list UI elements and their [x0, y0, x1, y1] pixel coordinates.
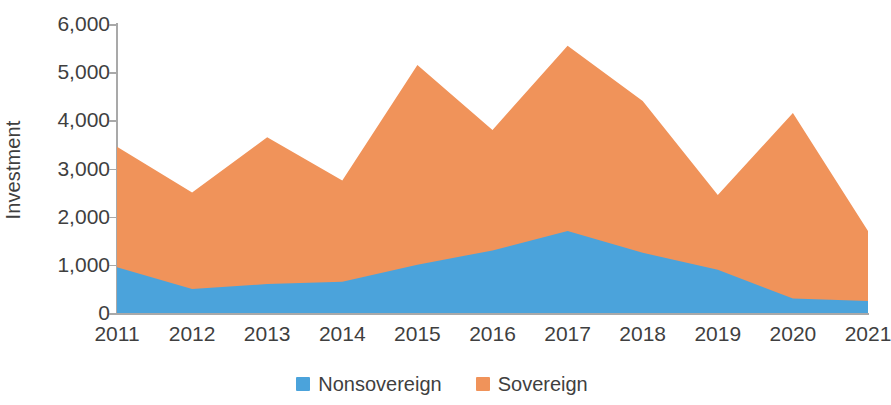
x-axis-tick-labels: 2011201220132014201520162017201820192020… [117, 322, 869, 352]
plot-area [117, 14, 869, 316]
legend-swatch-icon [476, 377, 490, 391]
y-axis-tick-mark [109, 265, 116, 267]
y-axis-tick-label: 5,000 [24, 61, 110, 82]
y-axis-tick-mark [109, 169, 116, 171]
x-axis-tick-label: 2014 [319, 322, 366, 346]
y-axis-tick-label: 0 [24, 302, 110, 323]
y-axis-tick-label: 1,000 [24, 254, 110, 275]
x-axis-tick-label: 2012 [169, 322, 216, 346]
y-axis-tick-label: 3,000 [24, 158, 110, 179]
x-axis-tick-label: 2013 [244, 322, 291, 346]
y-axis-tick-mark [109, 217, 116, 219]
legend-item[interactable]: Nonsovereign [296, 374, 441, 394]
legend-swatch-icon [296, 377, 310, 391]
area-series-svg [117, 14, 869, 316]
x-axis-tick-label: 2021 [845, 322, 891, 346]
y-axis-tick-mark [109, 72, 116, 74]
legend-label: Nonsovereign [318, 374, 441, 394]
x-axis-tick-label: 2019 [694, 322, 741, 346]
y-axis-tick-mark [109, 120, 116, 122]
y-axis-tick-mark [109, 313, 116, 315]
x-axis-tick-label: 2015 [394, 322, 441, 346]
y-axis-title: Investment [0, 0, 26, 340]
x-axis-tick-label: 2016 [469, 322, 516, 346]
x-axis-tick-label: 2020 [770, 322, 817, 346]
legend-item[interactable]: Sovereign [476, 374, 588, 394]
y-axis-tick-label: 2,000 [24, 206, 110, 227]
chart-legend: NonsovereignSovereign [0, 374, 884, 394]
y-axis-tick-label: 6,000 [24, 13, 110, 34]
x-axis-tick-label: 2017 [544, 322, 591, 346]
legend-label: Sovereign [498, 374, 588, 394]
y-axis-tick-mark [109, 24, 116, 26]
x-axis-tick-label: 2011 [94, 322, 139, 346]
x-axis-tick-label: 2018 [619, 322, 666, 346]
y-axis-tick-label: 4,000 [24, 109, 110, 130]
